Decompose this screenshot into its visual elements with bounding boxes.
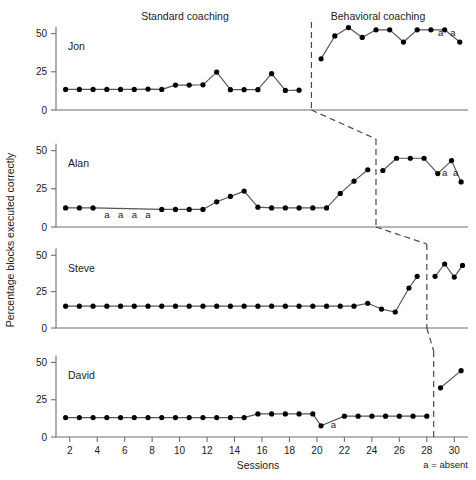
data-point (332, 33, 337, 38)
data-point (452, 274, 457, 279)
x-tick-label: 14 (229, 445, 241, 456)
data-point (159, 304, 164, 309)
data-point (428, 27, 433, 32)
data-point (269, 205, 274, 210)
x-tick-label: 10 (174, 445, 186, 456)
data-point (242, 304, 247, 309)
data-point (351, 179, 356, 184)
panel-jon: 02550Jonaa (36, 22, 468, 116)
data-point (283, 88, 288, 93)
data-point (63, 205, 68, 210)
data-point (346, 25, 351, 30)
panel-axes (56, 355, 468, 437)
data-point (365, 167, 370, 172)
multiple-baseline-figure: Standard coaching Behavioral coaching Pe… (0, 0, 476, 480)
data-point (132, 304, 137, 309)
absent-marker: a (442, 167, 448, 178)
data-point (360, 35, 365, 40)
data-point (63, 415, 68, 420)
data-point (342, 414, 347, 419)
y-tick-label: 25 (36, 183, 48, 194)
data-point (351, 304, 356, 309)
data-point (421, 156, 426, 161)
y-tick-label: 50 (36, 250, 48, 261)
data-point (77, 87, 82, 92)
data-point (228, 87, 233, 92)
absent-marker: a (453, 167, 459, 178)
data-point (369, 414, 374, 419)
data-point (187, 207, 192, 212)
data-point (410, 414, 415, 419)
data-point (63, 304, 68, 309)
absent-legend-note: a = absent (423, 459, 468, 470)
data-point (77, 205, 82, 210)
data-point (318, 56, 323, 61)
x-axis-title: Sessions (237, 459, 280, 471)
data-point (435, 171, 440, 176)
data-point (145, 304, 150, 309)
x-tick-label: 22 (339, 445, 351, 456)
data-point (401, 39, 406, 44)
data-point (200, 304, 205, 309)
data-point (406, 285, 411, 290)
data-point (228, 194, 233, 199)
y-tick-label: 25 (36, 394, 48, 405)
data-point (383, 414, 388, 419)
data-point (296, 411, 301, 416)
data-point (324, 304, 329, 309)
data-point (438, 385, 443, 390)
data-point (242, 189, 247, 194)
panel-axes (56, 248, 468, 328)
data-point (283, 411, 288, 416)
y-axis-title: Percentage blocks executed correctly (4, 152, 16, 327)
data-point (145, 415, 150, 420)
data-point (173, 207, 178, 212)
x-tick-label: 26 (394, 445, 406, 456)
data-point (159, 207, 164, 212)
data-point (338, 191, 343, 196)
panels-group: 02550Jonaa02550Alanaaaaaa02550Steve02550… (36, 22, 468, 456)
data-point (442, 261, 447, 266)
data-point (200, 82, 205, 87)
data-point (415, 27, 420, 32)
panel-david: 0255024681012141618202224262830Davida (36, 351, 468, 456)
data-point (187, 83, 192, 88)
data-point (296, 205, 301, 210)
data-point (145, 86, 150, 91)
data-point (460, 263, 465, 268)
x-tick-label: 20 (311, 445, 323, 456)
chart-canvas: Standard coaching Behavioral coaching Pe… (0, 0, 476, 480)
data-point (118, 87, 123, 92)
data-point (269, 304, 274, 309)
data-point (173, 83, 178, 88)
data-point (318, 423, 323, 428)
y-tick-label: 50 (36, 145, 48, 156)
x-tick-label: 28 (421, 445, 433, 456)
data-point (214, 415, 219, 420)
phase-connector-1 (376, 227, 427, 244)
data-point (457, 39, 462, 44)
absent-marker: a (118, 209, 124, 220)
data-point (397, 414, 402, 419)
x-tick-label: 6 (122, 445, 128, 456)
data-point (365, 301, 370, 306)
data-point (269, 411, 274, 416)
absent-marker: a (132, 209, 138, 220)
subject-label-steve: Steve (68, 262, 95, 274)
y-tick-label: 0 (41, 222, 47, 233)
x-tick-label: 8 (149, 445, 155, 456)
data-point (132, 87, 137, 92)
data-point (173, 415, 178, 420)
data-point (187, 415, 192, 420)
data-point (255, 205, 260, 210)
data-point (104, 87, 109, 92)
absent-marker: a (438, 27, 444, 38)
data-point (90, 87, 95, 92)
absent-marker: a (450, 27, 456, 38)
data-point (118, 415, 123, 420)
data-point (310, 411, 315, 416)
y-tick-label: 0 (41, 105, 47, 116)
data-point (387, 27, 392, 32)
phase-connector-2 (427, 328, 434, 351)
subject-label-jon: Jon (68, 40, 85, 52)
